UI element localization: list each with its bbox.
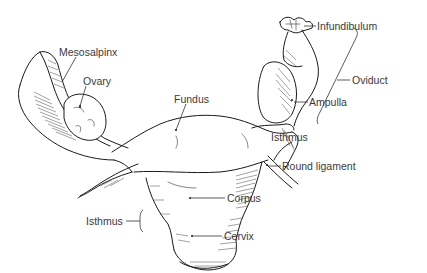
label-ovary: Ovary <box>83 76 111 87</box>
left-round-ligament <box>78 164 138 198</box>
uterus-body <box>112 115 292 270</box>
label-infundibulum: Infundibulum <box>317 21 377 32</box>
label-mesosalpinx: Mesosalpinx <box>59 47 117 58</box>
label-oviduct: Oviduct <box>352 75 388 86</box>
label-corpus: Corpus <box>227 193 261 204</box>
right-oviduct <box>252 17 318 170</box>
uterus-diagram <box>0 0 427 273</box>
label-fundus: Fundus <box>174 94 209 105</box>
label-isthmus-tube: Isthmus <box>271 132 308 143</box>
left-ovary <box>64 94 106 140</box>
label-isthmus-uterus: Isthmus <box>86 216 123 227</box>
label-cervix: Cervix <box>224 231 254 242</box>
label-round-ligament: Round ligament <box>282 161 356 172</box>
label-ampulla: Ampulla <box>309 97 347 108</box>
